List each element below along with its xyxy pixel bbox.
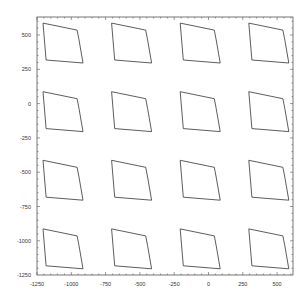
quadrilateral-shapes [43,23,289,269]
x-tick-label: 250 [238,281,247,287]
x-tick-label: -1250 [30,281,44,287]
quad-shape-r2-c1 [112,160,152,200]
y-axis-tick-labels: 5002500-250-500-750-1000-1250 [17,32,31,278]
quad-shape-r0-c3 [249,23,289,63]
quad-shape-r3-c3 [249,229,289,269]
x-tick-label: -1000 [64,281,78,287]
y-tick-label: -750 [20,204,31,210]
x-tick-label: -750 [100,281,111,287]
plot-frame [37,17,293,275]
quad-shape-r1-c1 [112,92,152,132]
quad-shape-r2-c3 [249,160,289,200]
quad-shape-r2-c0 [43,160,83,200]
y-tick-label: 250 [22,66,31,72]
y-tick-label: -1000 [17,238,31,244]
x-tick-label: -250 [169,281,180,287]
x-axis-tick-labels: -1250-1000-750-500-2500250500 [30,281,282,287]
quad-shape-r0-c0 [43,23,83,63]
quad-shape-r2-c2 [180,160,220,200]
quad-shape-r0-c1 [112,23,152,63]
quad-shape-r1-c0 [43,92,83,132]
y-tick-label: -1250 [17,272,31,278]
y-tick-label: -250 [20,135,31,141]
y-tick-label: 0 [28,101,31,107]
x-tick-label: 500 [273,281,282,287]
x-tick-label: 0 [207,281,210,287]
quad-shape-r1-c2 [180,92,220,132]
quad-shape-r0-c2 [180,23,220,63]
quad-shape-r3-c1 [112,229,152,269]
y-tick-label: 500 [22,32,31,38]
quad-shape-r3-c0 [43,229,83,269]
chart: -1250-1000-750-500-2500250500 5002500-25… [0,0,305,297]
x-tick-label: -500 [134,281,145,287]
quad-shape-r1-c3 [249,92,289,132]
quad-shape-r3-c2 [180,229,220,269]
y-tick-label: -500 [20,169,31,175]
axis-ticks [37,17,293,275]
